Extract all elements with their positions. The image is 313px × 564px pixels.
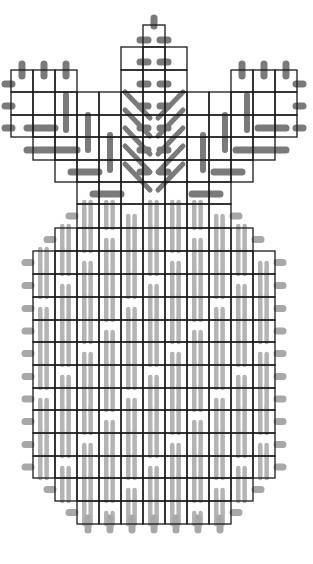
pineapple-stitch-chart [0,0,313,564]
